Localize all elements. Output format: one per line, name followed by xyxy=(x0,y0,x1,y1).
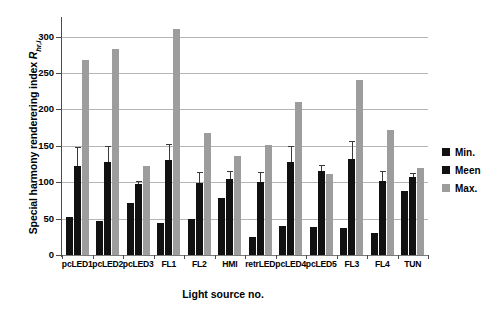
bar-group xyxy=(337,22,368,255)
y-tick-label-0: 0 xyxy=(20,249,54,260)
y-tick-label-300: 300 xyxy=(20,31,54,42)
error-bar-line xyxy=(230,171,231,179)
bar-meen xyxy=(135,184,142,255)
bar-max xyxy=(112,49,119,255)
bar-max xyxy=(204,133,211,255)
bar-group xyxy=(245,22,276,255)
error-bar-line xyxy=(291,146,292,162)
bar-meen xyxy=(196,183,203,255)
bar-meen xyxy=(318,171,325,255)
bar-max xyxy=(82,60,89,255)
bar-min xyxy=(401,191,408,255)
error-bar-cap xyxy=(410,173,416,174)
bar-min xyxy=(66,217,73,255)
bar-min xyxy=(371,233,378,255)
y-tick-label-250: 250 xyxy=(20,67,54,78)
error-bar-cap xyxy=(166,144,172,145)
error-bar-cap xyxy=(349,141,355,142)
plot-area xyxy=(62,22,428,255)
error-bar-line xyxy=(352,141,353,158)
error-bar-cap xyxy=(197,172,203,173)
bar-max xyxy=(295,102,302,255)
y-tick-label-50: 50 xyxy=(20,213,54,224)
bar-group xyxy=(398,22,429,255)
y-tick-label-100: 100 xyxy=(20,176,54,187)
bar-meen xyxy=(379,181,386,255)
legend-swatch xyxy=(442,184,450,192)
legend-swatch xyxy=(442,166,450,174)
y-axis-title: Special harmony renderering index Rhr,i xyxy=(27,8,42,268)
y-axis-symbol: R xyxy=(27,52,39,59)
legend-item: Max. xyxy=(442,179,481,197)
bar-group xyxy=(154,22,185,255)
error-bar-cap xyxy=(136,181,142,182)
chart-legend: Min.MeenMax. xyxy=(442,143,481,197)
legend-label: Max. xyxy=(455,183,477,194)
error-bar-cap xyxy=(319,165,325,166)
bar-group xyxy=(93,22,124,255)
bar-meen xyxy=(104,162,111,255)
error-bar-cap xyxy=(105,146,111,147)
x-category-label: TUN xyxy=(392,259,435,269)
bar-min xyxy=(310,227,317,255)
bar-group xyxy=(276,22,307,255)
legend-label: Meen xyxy=(455,165,481,176)
bar-min xyxy=(249,237,256,255)
bar-group xyxy=(215,22,246,255)
bar-meen xyxy=(287,162,294,255)
bar-meen xyxy=(257,182,264,255)
legend-swatch xyxy=(442,148,450,156)
bar-group xyxy=(184,22,215,255)
legend-item: Meen xyxy=(442,161,481,179)
bar-max xyxy=(234,156,241,255)
legend-label: Min. xyxy=(455,147,475,158)
bar-meen xyxy=(165,160,172,255)
bar-group xyxy=(306,22,337,255)
error-bar-cap xyxy=(258,172,264,173)
bar-min xyxy=(218,198,225,255)
error-bar-cap xyxy=(227,171,233,172)
bar-max xyxy=(265,145,272,255)
error-bar-line xyxy=(199,172,200,183)
bar-max xyxy=(143,166,150,255)
error-bar-line xyxy=(382,171,383,180)
legend-item: Min. xyxy=(442,143,481,161)
bar-max xyxy=(173,29,180,255)
chart-figure: Special harmony renderering index Rhr,i … xyxy=(0,0,502,313)
bar-meen xyxy=(409,177,416,255)
bar-max xyxy=(387,130,394,255)
bar-meen xyxy=(74,166,81,255)
error-bar-line xyxy=(260,172,261,182)
bar-group xyxy=(62,22,93,255)
error-bar-line xyxy=(77,147,78,167)
bar-min xyxy=(188,219,195,255)
bar-min xyxy=(279,226,286,255)
bar-meen xyxy=(226,179,233,255)
error-bar-line xyxy=(108,146,109,162)
y-tick-label-200: 200 xyxy=(20,103,54,114)
bar-group xyxy=(123,22,154,255)
bar-max xyxy=(417,168,424,255)
error-bar-cap xyxy=(288,146,294,147)
y-tick-label-150: 150 xyxy=(20,140,54,151)
x-axis-title: Light source no. xyxy=(0,288,446,300)
y-axis-subscript: hr,i xyxy=(34,41,43,52)
bar-min xyxy=(127,203,134,255)
bar-min xyxy=(157,223,164,255)
bar-min xyxy=(96,221,103,255)
bar-min xyxy=(340,228,347,255)
error-bar-cap xyxy=(380,171,386,172)
bar-meen xyxy=(348,159,355,255)
bar-max xyxy=(326,174,333,255)
bar-group xyxy=(367,22,398,255)
error-bar-cap xyxy=(75,147,81,148)
bar-max xyxy=(356,80,363,255)
error-bar-line xyxy=(169,144,170,160)
